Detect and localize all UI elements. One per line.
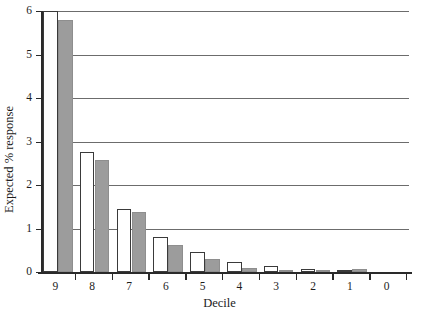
y-axis-tick: [36, 11, 42, 12]
x-axis-tick: [296, 273, 297, 280]
bar-white-decile-9: [43, 11, 58, 272]
bar-gray-decile-6: [168, 245, 183, 272]
chart-figure: Expected % response 0123456 9876543210 D…: [0, 0, 421, 319]
y-axis-tick-label: 5: [26, 49, 32, 61]
gridline: [41, 142, 409, 143]
y-axis-tick-labels: 0123456: [0, 11, 32, 272]
y-axis-tick: [36, 185, 42, 186]
bar-white-decile-8: [80, 152, 95, 272]
bar-gray-decile-8: [95, 160, 110, 272]
y-axis-tick-label: 6: [26, 5, 32, 17]
bar-gray-decile-9: [58, 20, 73, 272]
y-axis-tick: [36, 142, 42, 143]
x-axis-tick-label: 1: [347, 281, 353, 293]
x-axis-tick: [332, 273, 333, 280]
plot-area: [41, 11, 409, 272]
x-axis-tick-label: 2: [310, 281, 316, 293]
x-axis-title-label: Decile: [203, 296, 236, 310]
x-axis-tick: [112, 273, 113, 280]
y-axis-tick-label: 1: [26, 223, 32, 235]
gridline: [41, 98, 409, 99]
bar-gray-decile-7: [132, 212, 147, 272]
x-axis-tick: [75, 273, 76, 280]
x-axis-tick: [369, 273, 370, 280]
y-axis-tick-label: 2: [26, 179, 32, 191]
x-axis-tick: [259, 273, 260, 280]
y-axis-tick: [36, 55, 42, 56]
y-axis-tick-label: 4: [26, 92, 32, 104]
x-axis-tick: [148, 273, 149, 280]
x-axis-tick-label: 8: [89, 281, 95, 293]
x-axis-tick-label: 4: [237, 281, 243, 293]
x-axis-tick: [185, 273, 186, 280]
x-axis-tick: [222, 273, 223, 280]
y-axis-tick: [36, 272, 42, 273]
bar-white-decile-6: [153, 237, 168, 272]
gridline: [41, 55, 409, 56]
y-axis-tick: [36, 229, 42, 230]
x-axis-tick-label: 7: [126, 281, 132, 293]
x-axis-tick-label: 5: [200, 281, 206, 293]
x-axis-tick-label: 6: [163, 281, 169, 293]
x-axis-tick-label: 3: [273, 281, 279, 293]
y-axis-tick-label: 0: [26, 266, 32, 278]
gridline: [41, 11, 409, 12]
x-axis-title: Decile: [0, 296, 421, 311]
bar-white-decile-4: [227, 262, 242, 272]
x-axis-tick-label: 0: [384, 281, 390, 293]
x-axis-tick-label: 9: [53, 281, 59, 293]
y-axis-tick-label: 3: [26, 136, 32, 148]
x-axis-tick: [406, 273, 407, 280]
bar-gray-decile-5: [205, 259, 220, 272]
bar-white-decile-5: [190, 252, 205, 272]
y-axis-tick: [36, 98, 42, 99]
x-axis-line: [38, 272, 412, 274]
bar-white-decile-7: [117, 209, 132, 272]
